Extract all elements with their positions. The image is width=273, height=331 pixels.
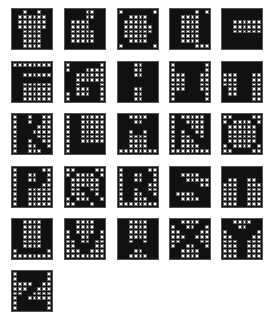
pixel-cell: [200, 39, 204, 43]
pixel-cell: [205, 178, 209, 182]
pixel-cell: [129, 144, 133, 148]
pixel-cell: [148, 149, 152, 153]
pixel-cell: [148, 30, 152, 34]
pixel-cell: [233, 188, 237, 192]
pixel-cell: [139, 197, 143, 201]
pixel-cell: [23, 244, 27, 248]
pixel-cell: [76, 15, 80, 19]
pixel-cell: [18, 115, 22, 119]
pixel-cell: [186, 135, 190, 139]
pixel-cell: [243, 25, 247, 29]
pixel-cell: [228, 39, 232, 43]
pixel-cell: [95, 197, 99, 201]
pixel-cell: [181, 220, 185, 224]
pixel-cell: [66, 235, 70, 239]
pixel-cell: [100, 15, 104, 19]
pixel-cell: [228, 225, 232, 229]
pixel-cell: [28, 235, 32, 239]
pixel-cell: [176, 240, 180, 244]
pixel-cell: [195, 92, 199, 96]
pixel-cell: [205, 230, 209, 234]
pixel-cell: [124, 235, 128, 239]
pixel-cell: [134, 120, 138, 124]
pixel-cell: [28, 15, 32, 19]
pixel-cell: [124, 39, 128, 43]
pixel-cell: [247, 115, 251, 119]
pixel-cell: [148, 197, 152, 201]
pixel-cell: [37, 125, 41, 129]
pixel-cell: [28, 287, 32, 291]
pixel-cell: [191, 149, 195, 153]
pixel-cell: [233, 183, 237, 187]
pixel-cell: [223, 144, 227, 148]
pixel-cell: [18, 25, 22, 29]
pixel-cell: [139, 63, 143, 67]
pixel-cell: [252, 125, 256, 129]
pixel-cell: [18, 225, 22, 229]
pixel-cell: [119, 230, 123, 234]
pixel-cell: [257, 44, 261, 48]
pixel-cell: [247, 39, 251, 43]
pixel-cell: [153, 63, 157, 67]
pixel-cell: [238, 30, 242, 34]
pixel-cell: [129, 87, 133, 91]
pixel-cell: [243, 254, 247, 258]
pixel-cell: [200, 244, 204, 248]
pixel-cell: [257, 115, 261, 119]
pixel-cell: [124, 249, 128, 253]
pixel-cell: [37, 235, 41, 239]
pixel-cell: [76, 240, 80, 244]
pixel-cell: [195, 78, 199, 82]
pixel-cell: [119, 83, 123, 87]
pixel-cell: [233, 249, 237, 253]
pixel-cell: [191, 144, 195, 148]
pixel-cell: [33, 78, 37, 82]
pixel-cell: [148, 168, 152, 172]
pixel-cell: [37, 30, 41, 34]
pixel-cell: [228, 20, 232, 24]
pixel-cell: [200, 83, 204, 87]
pixel-cell: [95, 139, 99, 143]
pixel-cell: [100, 97, 104, 101]
pixel-cell: [81, 34, 85, 38]
pixel-cell: [28, 130, 32, 134]
pixel-cell: [195, 225, 199, 229]
pixel-cell: [186, 120, 190, 124]
pixel-cell: [238, 173, 242, 177]
pixel-cell: [228, 254, 232, 258]
pixel-cell: [247, 188, 251, 192]
pixel-cell: [47, 301, 51, 305]
pixel-cell: [37, 20, 41, 24]
pixel-cell: [186, 130, 190, 134]
pixel-cell: [186, 149, 190, 153]
pixel-cell: [205, 220, 209, 224]
pixel-cell: [86, 139, 90, 143]
pixel-cell: [257, 20, 261, 24]
pixel-cell: [200, 130, 204, 134]
pixel-cell: [171, 244, 175, 248]
pixel-cell: [18, 272, 22, 276]
pixel-cell: [134, 230, 138, 234]
pixel-cell: [95, 192, 99, 196]
pixel-cell: [176, 188, 180, 192]
pixel-cell: [134, 254, 138, 258]
pixel-cell: [195, 183, 199, 187]
pixel-cell: [28, 192, 32, 196]
pixel-cell: [134, 44, 138, 48]
pixel-cell: [76, 97, 80, 101]
pixel-cell: [37, 301, 41, 305]
pixel-cell: [37, 230, 41, 234]
pixel-cell: [47, 254, 51, 258]
pixel-cell: [200, 249, 204, 253]
pixel-cell: [205, 78, 209, 82]
pixel-cell: [42, 202, 46, 206]
pixel-cell: [23, 292, 27, 296]
pixel-cell: [86, 249, 90, 253]
pixel-cell: [252, 39, 256, 43]
pixel-cell: [42, 240, 46, 244]
pixel-cell: [238, 144, 242, 148]
pixel-cell: [47, 120, 51, 124]
pixel-cell: [134, 25, 138, 29]
pixel-cell: [42, 168, 46, 172]
pixel-cell: [129, 178, 133, 182]
